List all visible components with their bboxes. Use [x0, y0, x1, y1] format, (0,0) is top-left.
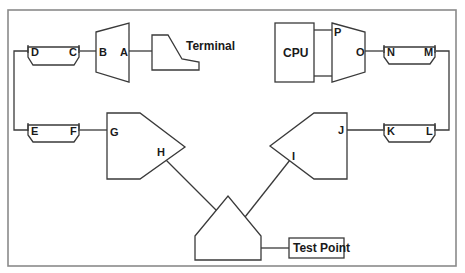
network-diagram: D C E F B A Terminal G H I J Test Point: [0, 0, 465, 273]
port-label-c: C: [69, 46, 77, 58]
terminal-node: Terminal: [152, 35, 235, 70]
port-label-a: A: [120, 46, 128, 58]
port-label-d: D: [31, 46, 39, 58]
mux-ba: B A: [96, 23, 129, 82]
port-label-h: H: [157, 146, 165, 158]
test-point-node: Test Point: [289, 238, 350, 258]
connector-ef: E F: [28, 123, 79, 142]
amp-ij: I J: [270, 113, 347, 179]
port-label-f: F: [70, 125, 77, 137]
port-label-o: O: [356, 46, 365, 58]
port-label-b: B: [99, 46, 107, 58]
port-label-i: I: [292, 150, 295, 162]
port-label-g: G: [110, 126, 119, 138]
test-point-label: Test Point: [293, 241, 350, 255]
connector-kl: K L: [384, 123, 435, 142]
terminal-label: Terminal: [186, 39, 235, 53]
combiner-node: [195, 196, 261, 260]
port-label-m: M: [424, 46, 433, 58]
connector-nm: N M: [384, 45, 435, 64]
port-label-e: E: [31, 125, 38, 137]
wire-l-m: [436, 51, 449, 130]
port-label-k: K: [387, 125, 395, 137]
port-label-j: J: [338, 124, 344, 136]
connector-dc: D C: [28, 45, 79, 65]
wire-d-e: [14, 51, 28, 130]
port-label-p: P: [334, 26, 341, 38]
cpu-label: CPU: [283, 46, 308, 60]
cpu-node: CPU: [275, 23, 314, 82]
port-label-l: L: [426, 125, 433, 137]
port-label-n: N: [387, 46, 395, 58]
wire-h-combiner: [166, 160, 217, 211]
wire-i-combiner: [245, 160, 290, 217]
mux-po: P O: [332, 23, 365, 82]
amp-gh: G H: [107, 113, 185, 179]
